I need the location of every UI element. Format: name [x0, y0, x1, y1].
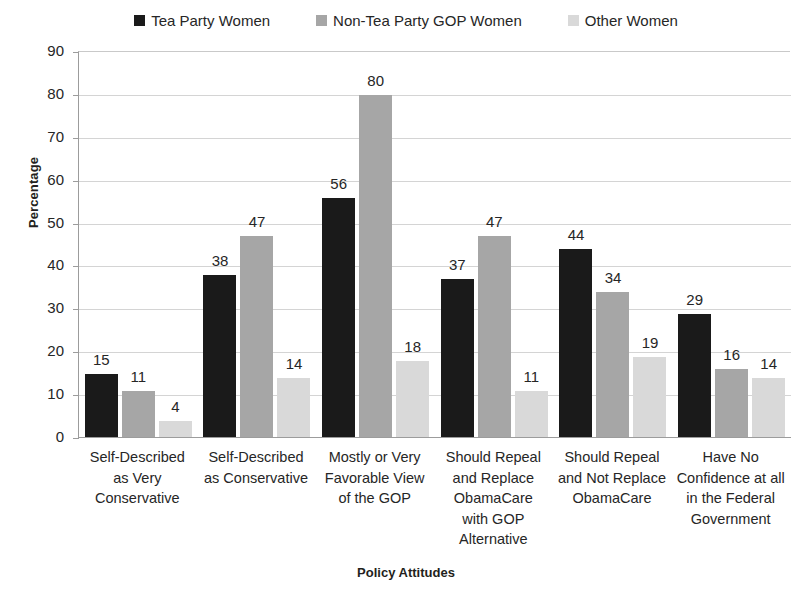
bar-value-label: 56 [317, 176, 361, 191]
bar [159, 421, 192, 438]
bar [715, 369, 748, 438]
legend-label: Other Women [585, 13, 678, 28]
category-label-line: Have No [666, 447, 795, 468]
legend-label: Tea Party Women [151, 13, 270, 28]
y-axis-tick-label: 30 [24, 300, 64, 315]
legend-label: Non-Tea Party GOP Women [333, 13, 522, 28]
legend-entry: Other Women [568, 13, 678, 28]
bar [596, 292, 629, 438]
bar [277, 378, 310, 438]
bar-value-label: 4 [153, 399, 197, 414]
bar-value-label: 80 [354, 73, 398, 88]
y-axis-tick-label: 40 [24, 257, 64, 272]
legend-swatch-icon [316, 15, 327, 26]
bar [633, 357, 666, 438]
bar-value-label: 14 [747, 356, 791, 371]
bar-group: 384714 [198, 52, 317, 438]
y-axis-tick-label: 70 [24, 129, 64, 144]
bar [203, 275, 236, 438]
bar-groups: 15114384714568018374711443419291614 [79, 52, 791, 439]
y-axis-title: Percentage [26, 133, 41, 253]
category-label-line: in the Federal [666, 488, 795, 509]
x-axis-baseline [79, 437, 791, 438]
category-label-line: Self-Described [73, 447, 202, 468]
x-axis-title: Policy Attitudes [0, 565, 812, 580]
bar [359, 95, 392, 438]
x-axis-category-label: Should Repealand ReplaceObamaCarewith GO… [429, 447, 558, 550]
bar-value-label: 29 [673, 292, 717, 307]
bar-group: 568018 [316, 52, 435, 438]
category-label-line: with GOP [429, 509, 558, 530]
category-label-line: ObamaCare [548, 488, 677, 509]
bar [678, 314, 711, 438]
bar-group: 15114 [79, 52, 198, 438]
bar [85, 374, 118, 438]
bar-value-label: 47 [472, 214, 516, 229]
bar [515, 391, 548, 438]
bar [240, 236, 273, 438]
legend-entry: Tea Party Women [134, 13, 270, 28]
x-axis-category-label: Self-Describedas VeryConservative [73, 447, 202, 509]
y-axis-tick-label: 10 [24, 386, 64, 401]
category-label-line: Mostly or Very [310, 447, 439, 468]
x-axis-category-label: Have NoConfidence at allin the FederalGo… [666, 447, 795, 529]
category-label-line: as Conservative [192, 468, 321, 489]
bar [559, 249, 592, 438]
y-axis-tick-label: 0 [24, 429, 64, 444]
bar-value-label: 38 [198, 253, 242, 268]
bar [478, 236, 511, 438]
category-label-line: Should Repeal [429, 447, 558, 468]
bar-value-label: 11 [116, 369, 160, 384]
category-label-line: Should Repeal [548, 447, 677, 468]
y-axis-tick-label: 60 [24, 172, 64, 187]
y-axis-tick-label: 90 [24, 43, 64, 58]
bar-value-label: 44 [554, 227, 598, 242]
category-label-line: Conservative [73, 488, 202, 509]
bar [441, 279, 474, 438]
x-axis-category-label: Should Repealand Not ReplaceObamaCare [548, 447, 677, 509]
bar-value-label: 37 [435, 257, 479, 272]
bar-group: 291614 [672, 52, 791, 438]
bar-value-label: 47 [235, 214, 279, 229]
x-axis-category-labels: Self-Describedas VeryConservativeSelf-De… [78, 447, 790, 557]
category-label-line: and Not Replace [548, 468, 677, 489]
bar-value-label: 34 [591, 270, 635, 285]
category-label-line: and Replace [429, 468, 558, 489]
chart-plot-area: 15114384714568018374711443419291614 [78, 51, 790, 438]
category-label-line: Alternative [429, 529, 558, 550]
bar [396, 361, 429, 438]
bar-value-label: 18 [391, 339, 435, 354]
category-label-line: Favorable View [310, 468, 439, 489]
bar [322, 198, 355, 438]
category-label-line: Government [666, 509, 795, 530]
x-axis-category-label: Mostly or VeryFavorable Viewof the GOP [310, 447, 439, 509]
category-label-line: Self-Described [192, 447, 321, 468]
bar-value-label: 19 [628, 335, 672, 350]
y-axis-tick-label: 20 [24, 343, 64, 358]
bar [122, 391, 155, 438]
legend-swatch-icon [568, 15, 579, 26]
x-axis-category-label: Self-Describedas Conservative [192, 447, 321, 488]
bar-value-label: 14 [272, 356, 316, 371]
y-axis-tick-label: 50 [24, 215, 64, 230]
legend-swatch-icon [134, 15, 145, 26]
bar-value-label: 11 [509, 369, 553, 384]
bar-value-label: 15 [79, 352, 123, 367]
legend-entry: Non-Tea Party GOP Women [316, 13, 522, 28]
category-label-line: as Very [73, 468, 202, 489]
chart-plot-wrapper: 15114384714568018374711443419291614 [78, 51, 790, 438]
category-label-line: Confidence at all [666, 468, 795, 489]
category-label-line: of the GOP [310, 488, 439, 509]
y-axis-tick-label: 80 [24, 86, 64, 101]
category-label-line: ObamaCare [429, 488, 558, 509]
bar-group: 443419 [554, 52, 673, 438]
bar [752, 378, 785, 438]
chart-legend: Tea Party WomenNon-Tea Party GOP WomenOt… [0, 6, 812, 34]
bar-group: 374711 [435, 52, 554, 438]
